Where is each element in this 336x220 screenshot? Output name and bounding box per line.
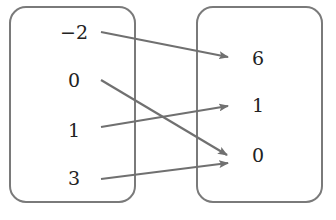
range-value: 6 xyxy=(252,47,264,69)
domain-value: 3 xyxy=(68,167,80,189)
domain-value: −2 xyxy=(60,21,88,43)
mapping-diagram: −2 0 1 3 6 1 0 xyxy=(0,0,336,220)
range-value: 0 xyxy=(252,144,264,166)
range-value: 1 xyxy=(252,94,264,116)
arrow-1-to-1 xyxy=(101,106,228,127)
domain-value: 0 xyxy=(68,69,80,91)
arrow-3-to-0 xyxy=(101,163,228,179)
arrow-neg2-to-6 xyxy=(101,32,228,57)
domain-value: 1 xyxy=(68,119,80,141)
